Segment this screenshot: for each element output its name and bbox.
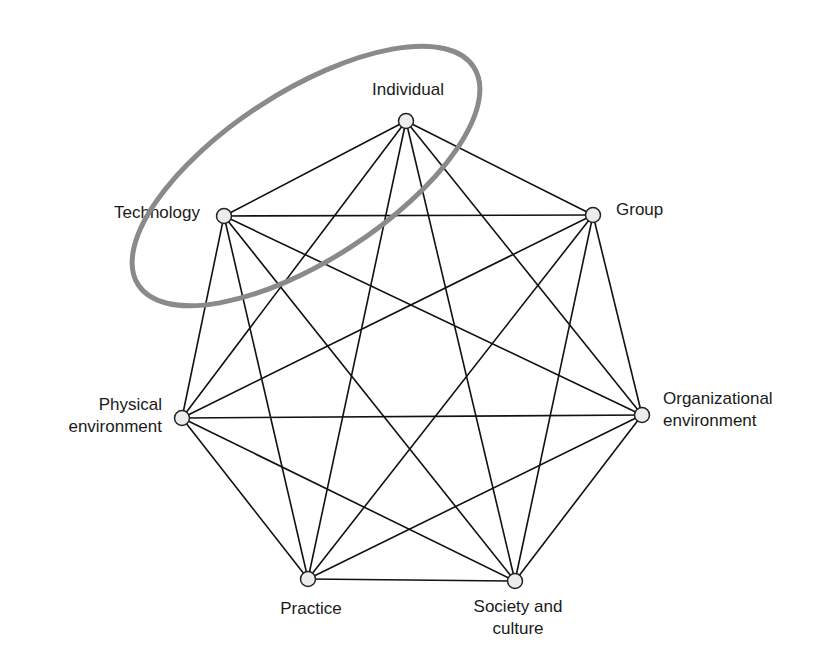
node-physical-environment <box>175 411 190 426</box>
node-organizational-environment <box>635 408 650 423</box>
edge-group-practice <box>308 215 593 579</box>
label-practice: Practice <box>280 599 341 618</box>
node-group <box>586 208 601 223</box>
node-practice <box>301 572 316 587</box>
label-line: Individual <box>372 80 444 99</box>
label-group: Group <box>616 200 663 219</box>
edge-organizational-environment-society-and-culture <box>515 415 642 581</box>
label-line: culture <box>492 619 543 638</box>
edge-physical-environment-technology <box>182 216 224 418</box>
edge-organizational-environment-physical-environment <box>182 415 642 418</box>
node-society-and-culture <box>508 574 523 589</box>
label-line: Society and <box>474 597 563 616</box>
label-line: environment <box>68 417 162 436</box>
label-line: Group <box>616 200 663 219</box>
edge-organizational-environment-technology <box>224 216 642 415</box>
edge-individual-group <box>406 121 593 215</box>
label-society-and-culture: Society andculture <box>474 597 563 638</box>
label-physical-environment: Physicalenvironment <box>68 395 162 436</box>
edge-group-technology <box>224 215 593 216</box>
edge-individual-practice <box>308 121 406 579</box>
labels-layer: IndividualGroupOrganizationalenvironment… <box>68 80 772 638</box>
label-technology: Technology <box>114 203 201 222</box>
label-individual: Individual <box>372 80 444 99</box>
edge-group-society-and-culture <box>515 215 593 581</box>
edges-layer <box>182 121 642 581</box>
edge-society-and-culture-practice <box>308 579 515 581</box>
label-line: Organizational <box>663 389 773 408</box>
factor-network-diagram: IndividualGroupOrganizationalenvironment… <box>0 0 836 666</box>
edge-individual-physical-environment <box>182 121 406 418</box>
node-individual <box>399 114 414 129</box>
label-line: Technology <box>114 203 201 222</box>
edge-society-and-culture-physical-environment <box>182 418 515 581</box>
edge-group-physical-environment <box>182 215 593 418</box>
highlight-ellipse <box>93 0 520 355</box>
edge-organizational-environment-practice <box>308 415 642 579</box>
label-line: Physical <box>99 395 162 414</box>
label-line: Practice <box>280 599 341 618</box>
node-technology <box>217 209 232 224</box>
nodes-layer <box>175 114 650 589</box>
label-organizational-environment: Organizationalenvironment <box>663 389 773 430</box>
label-line: environment <box>663 411 757 430</box>
edge-individual-technology <box>224 121 406 216</box>
